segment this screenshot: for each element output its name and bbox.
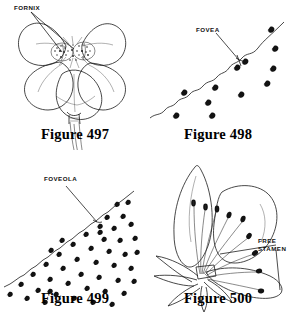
figure-plate: FORNIX Figure 497 <box>0 0 288 324</box>
figure-498: FOVEA Figure 498 <box>148 0 288 150</box>
margin-line <box>4 191 134 287</box>
fovea-leader-line <box>216 33 239 60</box>
anther-group <box>191 200 264 294</box>
figure-499: FOVEOLA Figure 499 <box>0 162 150 312</box>
caption-figure-498: Figure 498 <box>148 126 288 143</box>
free-stamen-leader-line-2 <box>276 250 280 290</box>
stamen-filaments <box>194 206 260 290</box>
figure-497: FORNIX Figure 497 <box>0 0 150 150</box>
foveola-leader-line <box>66 186 97 222</box>
label-fornix: FORNIX <box>14 4 40 12</box>
label-free: FREE <box>258 237 286 245</box>
caption-figure-499: Figure 499 <box>0 290 150 307</box>
label-foveola: FOVEOLA <box>44 175 77 183</box>
figure-500: FREE STAMEN Figure 500 <box>148 162 288 312</box>
label-free-stamen: FREE STAMEN <box>258 237 286 252</box>
caption-figure-497: Figure 497 <box>0 126 150 143</box>
label-stamen: STAMEN <box>258 245 286 253</box>
margin-line <box>150 22 284 118</box>
fovea-mark-field <box>171 27 278 119</box>
fornix-leader-line-2 <box>31 12 62 52</box>
petal-upper-left <box>174 166 212 267</box>
label-fovea: FOVEA <box>196 26 220 34</box>
caption-figure-500: Figure 500 <box>148 290 288 307</box>
